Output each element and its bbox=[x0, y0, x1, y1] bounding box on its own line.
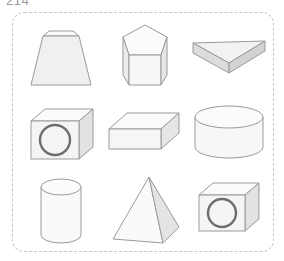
shape-cell-truncated-pyramid[interactable] bbox=[21, 19, 101, 95]
shape-cell-triangular-wedge-prism[interactable] bbox=[189, 19, 269, 95]
shape-cell-cube-with-ring-right[interactable] bbox=[189, 173, 269, 249]
shape-panel bbox=[12, 12, 274, 252]
cube-with-ring-icon bbox=[199, 183, 259, 231]
shape-cell-pentagonal-prism[interactable] bbox=[105, 19, 185, 95]
truncated-pyramid-icon bbox=[31, 31, 91, 85]
shape-cell-square-pyramid[interactable] bbox=[105, 173, 185, 249]
shape-cell-cube-with-ring-left[interactable] bbox=[21, 99, 101, 175]
tall-cylinder-icon bbox=[41, 179, 81, 243]
shape-grid bbox=[13, 13, 273, 251]
shape-cell-tall-cylinder[interactable] bbox=[21, 173, 101, 249]
cube-with-ring-icon bbox=[31, 109, 93, 159]
worksheet-page: 214 bbox=[0, 0, 284, 261]
page-number-label: 214 bbox=[6, 0, 29, 8]
triangular-wedge-prism-icon bbox=[193, 41, 265, 73]
rectangular-box-icon bbox=[109, 113, 179, 149]
shape-cell-wide-cylinder[interactable] bbox=[189, 99, 269, 175]
wide-cylinder-icon bbox=[195, 106, 263, 158]
pentagonal-prism-icon bbox=[123, 25, 167, 85]
shape-cell-rectangular-box[interactable] bbox=[105, 99, 185, 175]
square-pyramid-icon bbox=[113, 177, 179, 243]
